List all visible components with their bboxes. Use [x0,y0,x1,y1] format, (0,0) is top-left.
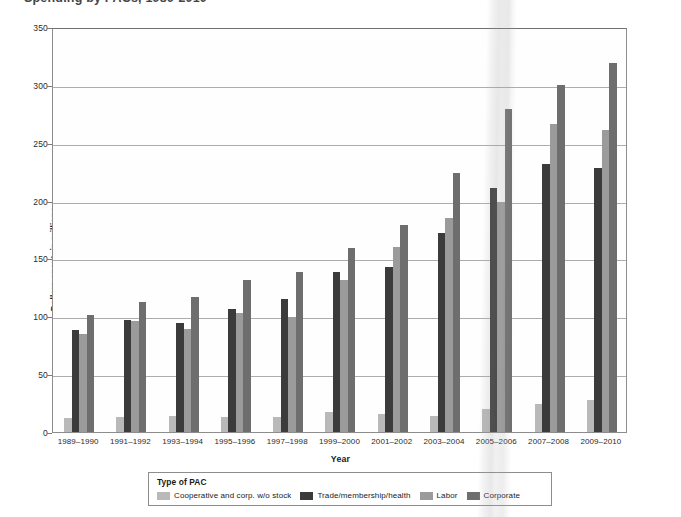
bar-group [419,29,471,432]
x-axis-title: Year [0,454,681,464]
bar-group [53,29,105,432]
bar [400,225,408,432]
x-axis-tick-label: 1999–2000 [319,437,360,446]
bar [340,280,348,432]
legend-item: Trade/membership/health [300,491,410,500]
x-axis-tick-label: 1991–1992 [110,437,151,446]
x-axis-tick-label: 1993–1994 [162,437,203,446]
bar-group [576,29,628,432]
bar [348,248,356,432]
bar [535,404,543,432]
bar [490,188,498,432]
legend-item: Cooperative and corp. w/o stock [157,491,291,500]
bar [594,168,602,432]
bar [236,313,244,432]
legend-title: Type of PAC [157,477,543,487]
bar [72,330,80,432]
x-axis-tick-label: 2009–2010 [580,437,621,446]
bar [505,109,513,432]
y-axis-tick-label: 0 [8,428,48,438]
legend-item-list: Cooperative and corp. w/o stockTrade/mem… [157,491,543,500]
bar [393,247,401,432]
legend-swatch [157,492,170,500]
x-axis-tick-label: 1995–1996 [214,437,255,446]
bar [228,309,236,432]
x-axis-tick-label: 2005–2006 [476,437,517,446]
bar [438,233,446,432]
y-axis-tick-label: 200 [8,197,48,207]
y-axis-tick-label: 150 [8,254,48,264]
bar [79,334,87,432]
legend-swatch [467,492,480,500]
bar-group [262,29,314,432]
bar [169,416,177,432]
y-axis-tick-mark [47,433,52,434]
chart-title-cropped: Spending by PACs, 1989-2010 [24,0,207,5]
legend-label: Trade/membership/health [317,491,410,500]
legend-item: Labor [420,491,458,500]
bar [139,302,147,432]
bar [557,85,565,432]
bar [64,418,72,432]
legend-label: Corporate [484,491,520,500]
bar [482,409,490,432]
bar [325,412,333,432]
bar [131,321,139,432]
y-axis-tick-label: 300 [8,81,48,91]
bar [587,400,595,432]
bar [497,202,505,432]
bar [273,417,281,432]
bar [430,416,438,432]
bar [445,218,453,432]
legend-item: Corporate [467,491,520,500]
legend: Type of PAC Cooperative and corp. w/o st… [148,472,552,506]
y-axis-tick-label: 50 [8,370,48,380]
bar [333,272,341,432]
legend-label: Labor [437,491,458,500]
bar [87,315,95,432]
x-axis-tick-label: 1997–1998 [267,437,308,446]
bar [453,173,461,432]
bar [124,320,132,432]
bar [184,329,192,432]
bar [542,164,550,432]
bar [609,63,617,432]
bar-group [158,29,210,432]
bar [288,317,296,432]
bar [296,272,304,432]
bar [191,297,199,432]
bar-group [314,29,366,432]
bar-group [105,29,157,432]
y-axis-tick-label: 100 [8,312,48,322]
x-axis-tick-label: 2007–2008 [528,437,569,446]
bar-group [367,29,419,432]
x-axis-tick-label: 2003–2004 [424,437,465,446]
bar [550,124,558,432]
bar [243,280,251,432]
legend-swatch [300,492,313,500]
bar-group [471,29,523,432]
bar [221,417,229,432]
bar [176,323,184,432]
bar [378,414,386,433]
bar [116,417,124,432]
bar-group [523,29,575,432]
bar [602,130,610,432]
bar [385,267,393,432]
x-axis-tick-label: 2001–2002 [371,437,412,446]
legend-swatch [420,492,433,500]
y-axis-tick-label: 250 [8,139,48,149]
y-axis-tick-label: 350 [8,23,48,33]
bar-group [210,29,262,432]
plot-area [52,28,627,433]
legend-label: Cooperative and corp. w/o stock [174,491,291,500]
x-axis-tick-label: 1989–1990 [58,437,99,446]
bar [281,299,289,432]
